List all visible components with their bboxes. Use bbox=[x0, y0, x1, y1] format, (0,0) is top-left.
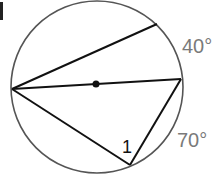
chord-right bbox=[130, 79, 181, 165]
angle-1-label: 1 bbox=[122, 137, 132, 157]
corner-mark bbox=[0, 2, 3, 20]
arc-label-70: 70° bbox=[177, 129, 207, 151]
arc-label-40: 40° bbox=[182, 35, 212, 57]
chord-lower bbox=[12, 89, 130, 165]
center-point bbox=[93, 81, 100, 88]
geometry-diagram: 40° 70° 1 bbox=[0, 0, 212, 177]
chord-upper bbox=[12, 24, 157, 89]
